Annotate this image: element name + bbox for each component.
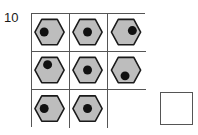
hexagon-with-dot-icon (108, 52, 146, 89)
hexagon-with-dot-icon (32, 90, 69, 128)
matrix-puzzle: 10 (0, 0, 198, 135)
matrix-cell-r2c2[interactable] (70, 52, 108, 90)
matrix-cell-r1c1[interactable] (32, 14, 70, 52)
matrix-cell-r3c3-missing[interactable] (108, 90, 146, 128)
matrix-cell-r3c2[interactable] (70, 90, 108, 128)
matrix-grid (31, 13, 145, 127)
hexagon-with-dot-icon (70, 90, 107, 128)
matrix-cell-r2c1[interactable] (32, 52, 70, 90)
hexagon-with-dot-icon (70, 14, 107, 51)
hexagon-with-dot-icon (70, 52, 107, 89)
hexagon-with-dot-icon (32, 14, 69, 51)
hexagon-with-dot-icon (32, 52, 69, 89)
answer-slot-box[interactable] (160, 92, 193, 125)
matrix-cell-r3c1[interactable] (32, 90, 70, 128)
matrix-cell-r2c3[interactable] (108, 52, 146, 90)
matrix-cell-r1c2[interactable] (70, 14, 108, 52)
matrix-cell-r1c3[interactable] (108, 14, 146, 52)
hexagon-with-dot-icon (108, 14, 146, 51)
item-number-label: 10 (4, 11, 18, 25)
